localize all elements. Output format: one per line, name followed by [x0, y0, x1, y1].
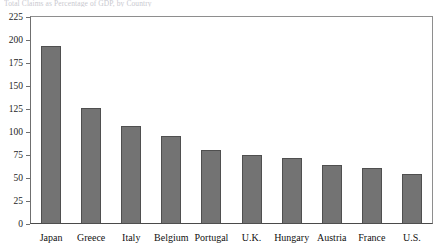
bar-slot — [272, 17, 312, 224]
y-axis-tick-mark — [26, 17, 30, 18]
y-axis-tick-label: 25 — [14, 195, 24, 207]
bar — [322, 165, 342, 224]
figure-caption-cutoff: Total Claims as Percentage of GDP, by Co… — [4, 0, 304, 7]
bar — [121, 126, 141, 224]
y-axis-tick-label: 50 — [14, 172, 24, 184]
bar-slot — [352, 17, 392, 224]
y-axis-tick: 50 — [0, 172, 30, 184]
y-axis-tick-mark — [26, 40, 30, 41]
x-axis-tick-label: U.K. — [232, 231, 272, 244]
bar-slot — [312, 17, 352, 224]
y-axis-tick-label: 150 — [9, 80, 23, 92]
x-axis-tick-label: Belgium — [151, 231, 191, 244]
y-axis-tick-mark — [26, 224, 30, 225]
y-axis-tick: 125 — [0, 103, 30, 115]
bar-slot — [232, 17, 272, 224]
x-axis-tick-label: Japan — [31, 231, 71, 244]
bar — [282, 158, 302, 224]
bar — [402, 174, 422, 224]
y-axis-tick: 200 — [0, 34, 30, 46]
y-axis-tick: 0 — [0, 218, 30, 230]
y-axis-tick: 150 — [0, 80, 30, 92]
y-axis-tick: 100 — [0, 126, 30, 138]
y-axis-tick-mark — [26, 201, 30, 202]
y-axis-tick-mark — [26, 178, 30, 179]
bar — [161, 136, 181, 224]
bar — [41, 46, 61, 224]
x-axis-tick-label: U.S. — [392, 231, 432, 244]
x-axis-tick-label: France — [352, 231, 392, 244]
x-axis: JapanGreeceItalyBelgiumPortugalU.K.Hunga… — [31, 226, 432, 248]
bars-layer — [31, 17, 432, 224]
bar-slot — [392, 17, 432, 224]
bar — [201, 150, 221, 224]
y-axis-tick: 75 — [0, 149, 30, 161]
bar — [362, 168, 382, 224]
bar-slot — [151, 17, 191, 224]
x-axis-tick-label: Portugal — [191, 231, 231, 244]
bar-slot — [191, 17, 231, 224]
y-axis-tick-mark — [26, 86, 30, 87]
bar-chart-figure: Total Claims as Percentage of GDP, by Co… — [0, 0, 438, 248]
y-axis: 0255075100125150175200225 — [0, 10, 30, 232]
y-axis-tick: 25 — [0, 195, 30, 207]
bar-slot — [111, 17, 151, 224]
x-axis-tick-label: Austria — [312, 231, 352, 244]
y-axis-tick-label: 100 — [9, 126, 23, 138]
x-axis-tick-label: Greece — [71, 231, 111, 244]
y-axis-tick-label: 125 — [9, 103, 23, 115]
y-axis-tick-label: 75 — [14, 149, 24, 161]
y-axis-tick-mark — [26, 132, 30, 133]
y-axis-tick: 225 — [0, 11, 30, 23]
bar-slot — [31, 17, 71, 224]
y-axis-tick: 175 — [0, 57, 30, 69]
y-axis-tick-label: 175 — [9, 57, 23, 69]
bar — [81, 108, 101, 224]
bar-slot — [71, 17, 111, 224]
y-axis-tick-label: 225 — [9, 11, 23, 23]
bar — [242, 155, 262, 224]
y-axis-tick-mark — [26, 155, 30, 156]
y-axis-tick-mark — [26, 63, 30, 64]
y-axis-tick-mark — [26, 109, 30, 110]
x-axis-tick-label: Hungary — [272, 231, 312, 244]
y-axis-tick-label: 0 — [18, 218, 23, 230]
y-axis-tick-label: 200 — [9, 34, 23, 46]
x-axis-tick-label: Italy — [111, 231, 151, 244]
